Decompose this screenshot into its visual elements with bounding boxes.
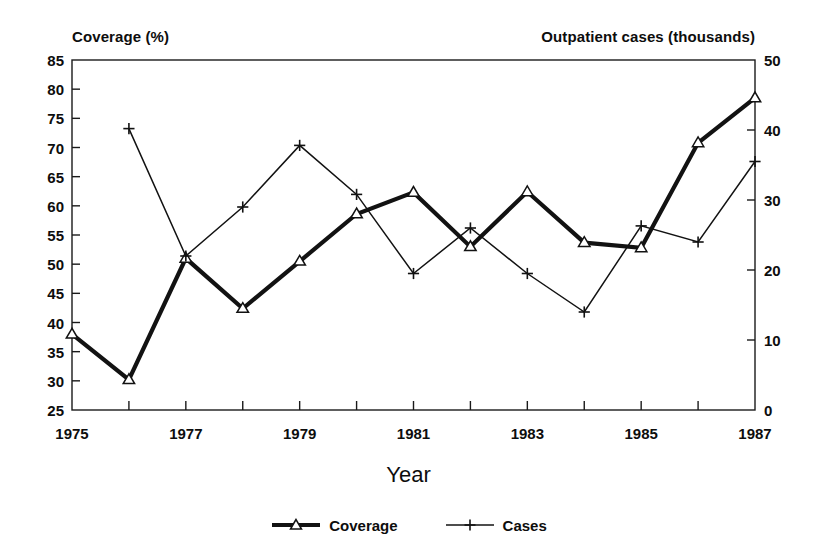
legend-label: Coverage [329,517,397,534]
x-axis-title: Year [0,462,817,488]
left-axis-title: Coverage (%) [72,28,169,45]
plus-marker [444,516,496,534]
right-axis-tick-label: 10 [764,333,781,348]
right-axis-tick-label: 0 [764,403,772,418]
chart-legend: CoverageCases [0,516,817,534]
left-axis-tick-label: 60 [47,198,64,213]
left-axis-tick-label: 70 [47,140,64,155]
data-point-marker-coverage [66,328,77,338]
left-axis-tick-label: 45 [47,286,64,301]
x-axis-tick-label: 1983 [511,426,544,441]
x-axis-tick-label: 1987 [738,426,771,441]
x-axis-tick-label: 1979 [283,426,316,441]
data-point-marker-coverage [522,186,533,196]
left-axis-tick-label: 65 [47,169,64,184]
right-axis-title: Outpatient cases (thousands) [541,28,755,45]
left-axis-tick-label: 75 [47,111,64,126]
triangle-marker [270,516,322,534]
left-axis-tick-label: 35 [47,344,64,359]
right-axis-tick-label: 40 [764,123,781,138]
plot-frame [72,60,755,410]
left-axis-tick-label: 40 [47,315,64,330]
left-axis-tick-label: 25 [47,403,64,418]
x-axis-tick-label: 1975 [55,426,88,441]
left-axis-tick-label: 50 [47,257,64,272]
x-axis-tick-label: 1977 [169,426,202,441]
right-axis-tick-label: 20 [764,263,781,278]
left-axis-tick-label: 80 [47,82,64,97]
legend-label: Cases [503,517,547,534]
data-point-marker-coverage [408,187,419,197]
x-axis-tick-label: 1985 [624,426,657,441]
left-axis-tick-label: 85 [47,53,64,68]
legend-entry-cases: Cases [444,516,547,534]
right-axis-tick-label: 30 [764,193,781,208]
series-line-coverage [72,98,755,380]
right-axis-tick-label: 50 [764,53,781,68]
data-point-marker-coverage [749,92,760,102]
left-axis-tick-label: 30 [47,373,64,388]
x-axis-tick-label: 1981 [397,426,430,441]
legend-entry-coverage: Coverage [270,516,397,534]
chart-container: Coverage (%) Outpatient cases (thousands… [0,0,817,554]
left-axis-tick-label: 55 [47,228,64,243]
